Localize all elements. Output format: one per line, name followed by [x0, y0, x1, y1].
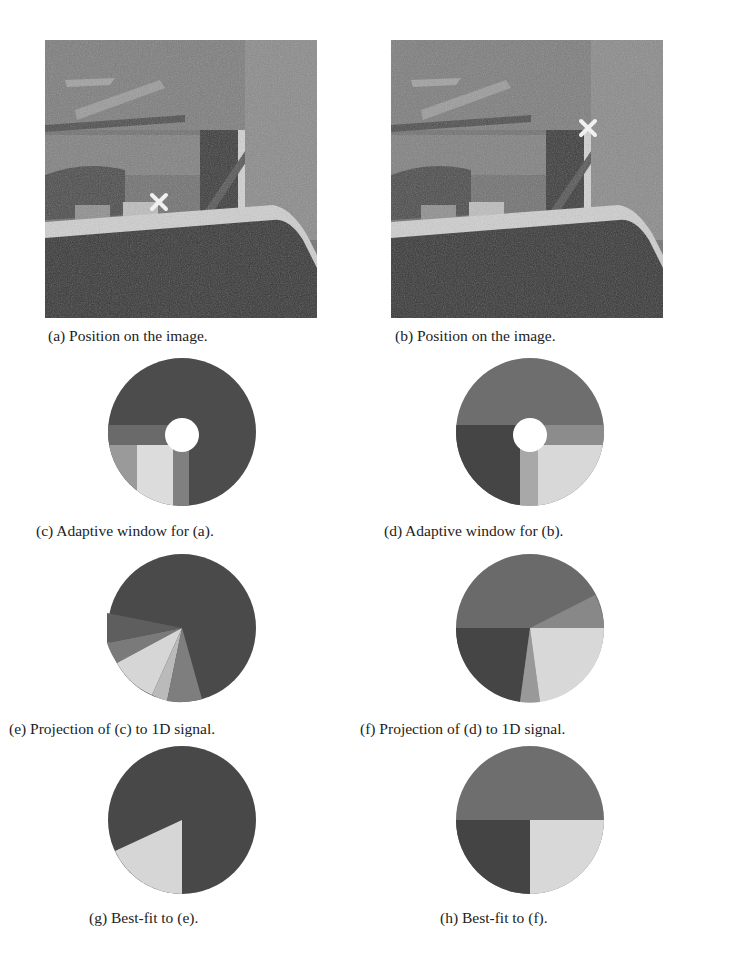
caption-g: (g) Best-fit to (e).: [89, 909, 198, 927]
panel-e: [107, 553, 257, 703]
position-marker-icon: [149, 192, 169, 212]
caption-b: (b) Position on the image.: [395, 327, 556, 345]
caption-a: (a) Position on the image.: [48, 327, 208, 345]
panel-g: [107, 745, 257, 895]
scene-photo-b: [391, 40, 663, 318]
best-fit-h: [455, 745, 605, 895]
caption-c: (c) Adaptive window for (a).: [36, 522, 214, 540]
adaptive-window-d: [455, 357, 605, 507]
caption-h: (h) Best-fit to (f).: [440, 909, 548, 927]
panel-a: [45, 40, 317, 318]
panel-b: [391, 40, 663, 318]
caption-d: (d) Adaptive window for (b).: [384, 522, 564, 540]
best-fit-g: [107, 745, 257, 895]
caption-e: (e) Projection of (c) to 1D signal.: [9, 720, 215, 738]
projection-e: [107, 553, 257, 703]
adaptive-window-c: [107, 357, 257, 507]
position-marker-icon: [578, 118, 598, 138]
projection-f: [455, 553, 605, 703]
caption-f: (f) Projection of (d) to 1D signal.: [360, 720, 565, 738]
panel-f: [455, 553, 605, 703]
scene-photo-a: [45, 40, 317, 318]
panel-c: [107, 357, 257, 507]
panel-d: [455, 357, 605, 507]
panel-h: [455, 745, 605, 895]
